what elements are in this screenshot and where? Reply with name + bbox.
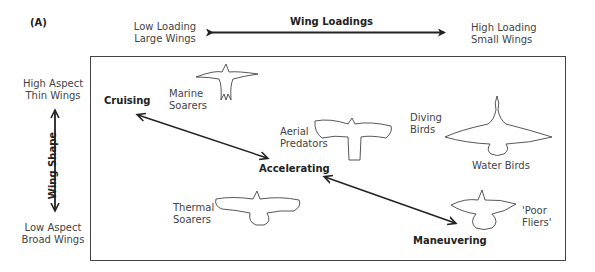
cruising-accelerating-arrow	[138, 115, 267, 158]
accelerating-maneuvering-arrow	[325, 177, 455, 223]
thermal-soarer-bird-icon	[216, 191, 300, 225]
poor-flier-bird-icon	[451, 190, 516, 230]
marine-soarer-bird-icon	[196, 64, 258, 100]
aerial-predator-bird-icon	[315, 118, 392, 160]
diagram-graphics	[0, 0, 595, 272]
water-bird-icon	[445, 96, 552, 156]
